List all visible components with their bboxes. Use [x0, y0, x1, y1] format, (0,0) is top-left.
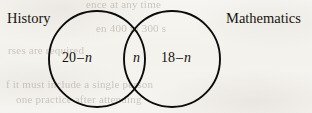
mathematics-only-number: 18: [161, 50, 175, 65]
mathematics-set-label: Mathematics: [226, 10, 301, 27]
history-only-variable: n: [85, 50, 92, 65]
venn-diagram-figure: ence at any time en 400 in 300 s rses ar…: [0, 0, 312, 113]
mathematics-only-variable: n: [184, 50, 191, 65]
intersection-region-text: n: [133, 50, 140, 66]
history-set-label: History: [7, 10, 51, 27]
mathematics-only-region-text: 18–n: [161, 50, 191, 66]
mathematics-only-operator: –: [175, 50, 184, 65]
history-only-number: 20: [62, 50, 76, 65]
intersection-variable: n: [133, 50, 140, 65]
history-only-operator: –: [76, 50, 85, 65]
history-only-region-text: 20–n: [62, 50, 92, 66]
